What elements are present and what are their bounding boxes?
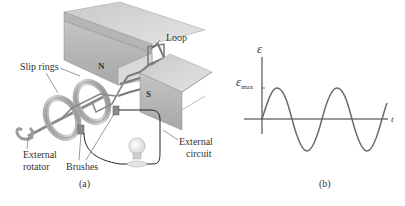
brushes-label: Brushes	[66, 161, 98, 172]
external-rotator-icon	[17, 128, 34, 141]
generator-diagram: N S	[17, 2, 213, 190]
emf-vs-time-graph: ε εmax t (b)	[236, 41, 394, 190]
figure-a-caption: (a)	[79, 178, 90, 190]
south-pole-label: S	[146, 89, 151, 99]
external-circuit-label-line2: circuit	[186, 148, 212, 159]
external-circuit-wire	[84, 110, 160, 164]
slip-rings-label: Slip rings	[20, 61, 59, 72]
figure-b-caption: (b)	[319, 178, 331, 190]
external-circuit-label-line1: External	[179, 136, 213, 147]
x-axis-label: t	[391, 114, 394, 124]
north-pole-label: N	[98, 61, 105, 71]
external-rotator-label-line2: rotator	[23, 161, 50, 172]
brush-2	[113, 106, 119, 115]
light-bulb-icon	[127, 138, 147, 167]
emax-label: εmax	[236, 74, 254, 91]
loop-label: Loop	[166, 32, 187, 43]
external-rotator-label-line1: External	[23, 149, 57, 160]
y-axis-label: ε	[257, 41, 263, 56]
brush-1	[78, 125, 84, 134]
ac-generator-figure: N S	[0, 0, 405, 206]
